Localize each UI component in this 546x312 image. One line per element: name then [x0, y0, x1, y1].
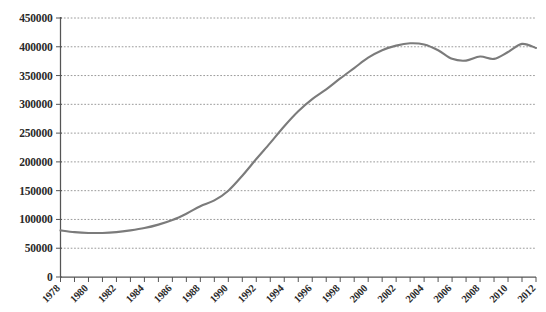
x-axis-tick-label: 2012 — [515, 283, 537, 305]
x-axis-tick-label: 1988 — [180, 283, 202, 305]
y-axis-tick-label: 200000 — [19, 156, 53, 168]
y-axis-tick-label: 400000 — [19, 41, 53, 53]
y-axis-tick-label: 250000 — [19, 127, 53, 139]
tick-marks-group — [56, 18, 536, 282]
line-chart: 0500001000001500002000002500003000003500… — [0, 0, 546, 312]
y-axis-tick-label: 450000 — [19, 12, 53, 24]
gridlines-group — [61, 18, 537, 248]
x-axis-tick-label: 1978 — [40, 283, 62, 305]
y-axis-tick-label: 50000 — [25, 242, 53, 254]
x-axis-tick-label: 2006 — [431, 283, 453, 305]
x-axis-tick-label: 2000 — [348, 283, 370, 305]
axes-group — [61, 17, 537, 277]
y-axis-tick-label: 350000 — [19, 70, 53, 82]
x-axis-tick-label: 2004 — [403, 282, 426, 305]
chart-canvas: 0500001000001500002000002500003000003500… — [0, 0, 546, 312]
x-axis-tick-label: 2010 — [487, 283, 509, 305]
y-axis-tick-label: 0 — [47, 271, 53, 283]
x-axis-tick-label: 2002 — [375, 283, 397, 305]
y-axis-tick-label: 150000 — [19, 185, 53, 197]
x-axis-tick-label: 1986 — [152, 283, 174, 305]
x-axis-tick-label: 1990 — [208, 283, 230, 305]
x-axis-tick-label: 1982 — [96, 283, 118, 305]
x-axis-labels-group: 1978198019821984198619881990199219941996… — [40, 282, 538, 305]
data-series-line — [61, 43, 537, 233]
data-series-group — [61, 43, 537, 233]
x-axis-tick-label: 1996 — [292, 283, 314, 305]
x-axis-tick-label: 1980 — [68, 283, 90, 305]
x-axis-tick-label: 1998 — [320, 283, 342, 305]
x-axis-tick-label: 1994 — [264, 282, 287, 305]
y-axis-labels-group: 0500001000001500002000002500003000003500… — [19, 12, 53, 283]
y-axis-tick-label: 100000 — [19, 213, 53, 225]
x-axis-tick-label: 2008 — [459, 283, 481, 305]
y-axis-tick-label: 300000 — [19, 98, 53, 110]
x-axis-tick-label: 1984 — [124, 282, 147, 305]
x-axis-tick-label: 1992 — [236, 283, 258, 305]
